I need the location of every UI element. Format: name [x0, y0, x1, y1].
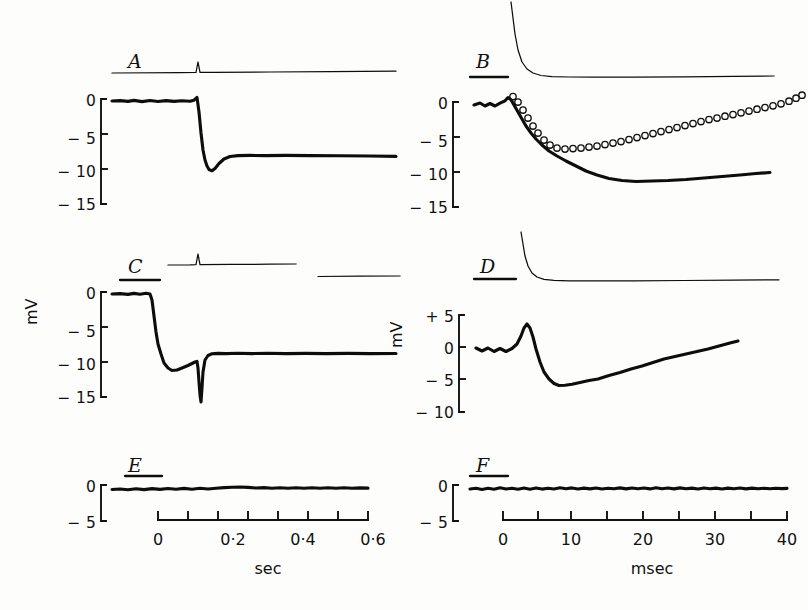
y-tick-label-E-0: 0: [56, 478, 96, 496]
panel-D-plot: [404, 232, 808, 432]
x-tick-label-F-10: 10: [552, 530, 590, 549]
panel-A-stimulus-trace: [112, 62, 396, 73]
y-tick-label-C-minus15: − 15: [40, 389, 96, 407]
x-tick-label-F-20: 20: [624, 530, 662, 549]
panel-letter-D: D: [480, 255, 495, 277]
y-tick-label-A-0: 0: [56, 92, 96, 110]
y-tick-label-B-minus15: − 15: [392, 199, 448, 217]
x-tick-label-E-04: 0·4: [283, 530, 323, 549]
x-tick-label-F-30: 30: [696, 530, 734, 549]
panel-D-membrane-trace: [476, 324, 738, 386]
panel-A-y-axis: [101, 99, 108, 204]
panel-D-stimulus-trace: [521, 232, 779, 281]
x-tick-label-E-0: 0: [143, 530, 173, 549]
y-tick-label-D-plus5: + 5: [402, 308, 454, 326]
panel-B-membrane-trace: [474, 98, 770, 182]
panel-B-plot: [404, 0, 808, 232]
y-tick-label-B-minus10: − 10: [392, 166, 448, 184]
panel-E-y-axis: [101, 485, 106, 521]
figure-canvas: mV mV A 0 − 5 − 10 − 15 B 0 − 5 − 10 − 1…: [0, 0, 808, 610]
panel-F-y-axis: [453, 485, 458, 521]
y-tick-label-F-0: 0: [408, 478, 448, 496]
panel-C: C 0 − 5 − 10 − 15: [0, 232, 404, 432]
panel-E-x-axis: [158, 511, 368, 520]
panel-letter-A: A: [128, 50, 142, 72]
panel-B-y-axis: [453, 102, 460, 207]
panel-F-membrane-trace: [470, 488, 787, 490]
y-tick-label-A-minus5: − 5: [48, 130, 96, 148]
panel-letter-E: E: [128, 454, 142, 476]
panel-F: F 0 − 5 0 10 20 30 40 msec: [404, 432, 808, 610]
x-axis-title-msec: msec: [612, 559, 692, 578]
panel-D: D + 5 0 − 5 − 10: [404, 232, 808, 432]
panel-C-stimulus-trace-step2: [318, 276, 400, 277]
y-tick-label-B-minus5: − 5: [400, 133, 448, 151]
y-tick-label-F-minus5: − 5: [400, 514, 448, 532]
y-tick-label-C-minus10: − 10: [40, 356, 96, 374]
panel-F-plot: [404, 432, 808, 610]
panel-C-membrane-trace: [112, 293, 396, 402]
panel-letter-F: F: [476, 454, 489, 476]
panel-E: E 0 − 5 0 0·2 0·4 0·6 sec: [0, 432, 404, 610]
panel-E-membrane-trace: [112, 487, 368, 490]
x-axis-title-sec: sec: [238, 559, 298, 578]
panel-letter-B: B: [476, 50, 490, 72]
panel-B: B 0 − 5 − 10 − 15: [404, 0, 808, 232]
y-tick-label-D-minus5: − 5: [406, 372, 454, 390]
y-tick-label-B-0: 0: [408, 95, 448, 113]
panel-letter-C: C: [128, 255, 143, 277]
panel-C-y-axis: [101, 292, 108, 397]
panel-B-computed-points: [510, 92, 805, 152]
x-tick-label-F-40: 40: [768, 530, 806, 549]
y-tick-label-E-minus5: − 5: [48, 514, 96, 532]
panel-B-stimulus-trace: [511, 2, 774, 77]
y-tick-label-A-minus10: − 10: [40, 163, 96, 181]
y-tick-label-A-minus15: − 15: [40, 196, 96, 214]
panel-D-y-axis: [459, 315, 466, 412]
x-tick-label-E-06: 0·6: [353, 530, 393, 549]
panel-A: A 0 − 5 − 10 − 15: [0, 0, 404, 232]
y-tick-label-D-0: 0: [414, 340, 454, 358]
y-tick-label-C-0: 0: [56, 285, 96, 303]
y-tick-label-D-minus10: − 10: [398, 404, 454, 422]
panel-C-stimulus-trace: [168, 254, 296, 265]
x-tick-label-F-0: 0: [488, 530, 518, 549]
panel-A-membrane-trace: [112, 98, 396, 171]
x-tick-label-E-02: 0·2: [213, 530, 253, 549]
panel-F-x-axis: [503, 511, 787, 520]
y-tick-label-C-minus5: − 5: [48, 323, 96, 341]
